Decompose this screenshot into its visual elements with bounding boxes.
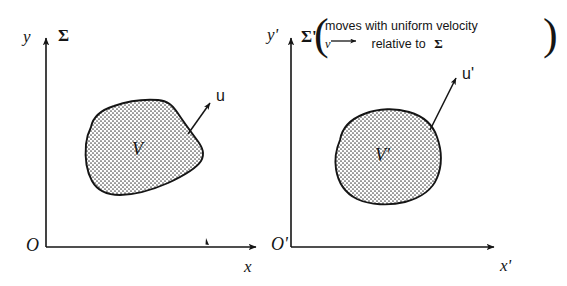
right-vector-label: u' xyxy=(462,66,474,82)
right-u-prime-vector xyxy=(430,78,456,130)
left-u-vector xyxy=(188,103,210,134)
figure-container: y Σ O x V u y' Σ' O' x' V' u' ( moves wi… xyxy=(0,0,567,286)
note-close-brace: ) xyxy=(543,13,558,57)
left-region-label: V xyxy=(132,140,143,158)
left-frame-label: Σ xyxy=(58,27,69,44)
left-vector-label: u xyxy=(216,88,225,104)
tick-mark-icon xyxy=(206,238,210,245)
note-velocity-symbol: v xyxy=(325,37,331,51)
left-origin-label: O xyxy=(26,236,39,254)
right-origin-label: O' xyxy=(271,235,288,253)
note-line-2: v relative to Σ xyxy=(325,35,443,51)
left-region-V xyxy=(86,100,203,195)
note-frame-symbol: Σ xyxy=(434,36,443,51)
right-region-label: V' xyxy=(375,146,390,164)
right-x-axis-label: x' xyxy=(500,257,511,274)
left-y-axis-label: y xyxy=(23,28,31,45)
right-y-axis-label: y' xyxy=(267,26,278,43)
note-relative-text: relative to xyxy=(371,37,425,51)
left-x-axis-label: x xyxy=(244,258,252,275)
left-blob-outline xyxy=(86,100,203,195)
note-line-1: moves with uniform velocity xyxy=(325,20,478,33)
